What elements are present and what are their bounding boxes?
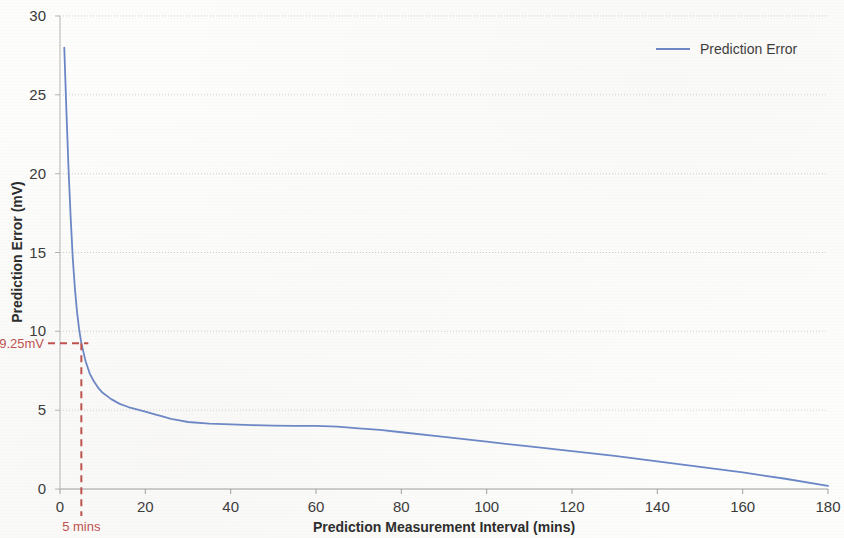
x-tick-label: 0 [56,498,64,515]
x-tick-label: 60 [308,498,325,515]
x-tick-label: 20 [137,498,154,515]
x-axis-title: Prediction Measurement Interval (mins) [313,519,575,535]
x-tick-label: 80 [393,498,410,515]
x-tick-label: 120 [559,498,584,515]
series-line-prediction-error [64,48,828,486]
y-tick-label: 30 [29,7,46,24]
y-tick-labels: 30 25 20 15 10 5 0 [29,7,46,497]
x-tick-label: 40 [222,498,239,515]
annotation-label-x-value: 5 mins [62,519,101,534]
x-tick-marks [60,489,828,494]
y-tick-marks [55,16,60,489]
gridlines [60,16,828,410]
x-tick-label: 100 [474,498,499,515]
line-chart: 30 25 20 15 10 5 0 0 20 40 60 80 [0,0,844,538]
chart-container: 30 25 20 15 10 5 0 0 20 40 60 80 [0,0,844,538]
y-tick-label: 20 [29,165,46,182]
y-tick-label: 0 [38,480,46,497]
y-tick-label: 5 [38,401,46,418]
x-tick-label: 160 [730,498,755,515]
x-tick-label: 180 [815,498,840,515]
x-tick-labels: 0 20 40 60 80 100 120 140 160 180 [56,498,841,515]
annotation-label-y-value: 9.25mV [0,336,44,351]
y-tick-label: 25 [29,86,46,103]
legend-label-prediction-error: Prediction Error [700,41,798,57]
y-tick-label: 15 [29,244,46,261]
x-tick-label: 140 [645,498,670,515]
chart-legend: Prediction Error [656,41,798,57]
y-axis-title: Prediction Error (mV) [9,181,25,323]
